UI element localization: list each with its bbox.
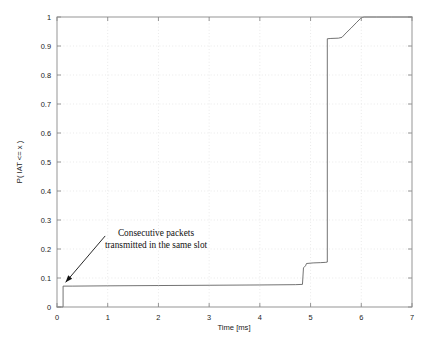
y-tick-label: 1	[47, 13, 51, 22]
x-tick-label: 1	[106, 313, 110, 322]
y-tick-label: 0.7	[41, 100, 51, 109]
x-tick-label: 5	[309, 313, 313, 322]
y-tick-label: 0.8	[41, 71, 51, 80]
x-tick-label: 4	[258, 313, 262, 322]
x-tick-label: 7	[410, 313, 414, 322]
y-tick-label: 0	[47, 303, 51, 312]
y-tick-label: 0.4	[41, 187, 51, 196]
annotation-line-1: Consecutive packets	[118, 228, 195, 238]
cdf-plot: 01234567 00.10.20.30.40.50.60.70.80.91 T…	[0, 0, 430, 346]
y-tick-label: 0.6	[41, 129, 51, 138]
y-tick-label: 0.9	[41, 42, 51, 51]
y-tick-label: 0.2	[41, 245, 51, 254]
annotation-line-2: transmitted in the same slot	[105, 240, 208, 250]
y-tick-labels: 00.10.20.30.40.50.60.70.80.91	[41, 13, 51, 312]
x-tick-label: 6	[359, 313, 363, 322]
x-tick-label: 3	[207, 313, 211, 322]
x-tick-label: 0	[55, 313, 59, 322]
y-axis-title: P( IAT <= x )	[15, 140, 24, 183]
y-tick-label: 0.5	[41, 158, 51, 167]
y-tick-label: 0.3	[41, 216, 51, 225]
y-tick-label: 0.1	[41, 274, 51, 283]
x-axis-title: Time [ms]	[217, 323, 250, 332]
x-tick-labels: 01234567	[55, 313, 414, 322]
figure-canvas: 01234567 00.10.20.30.40.50.60.70.80.91 T…	[0, 0, 430, 346]
x-tick-label: 2	[156, 313, 160, 322]
